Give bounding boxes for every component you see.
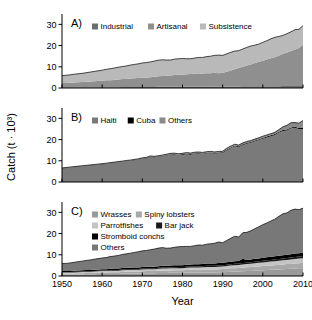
- legend-label-haiti: Haiti: [101, 116, 117, 125]
- figure-stacked-area-catch: 0102030A)IndustrialArtisanalSubsistence0…: [0, 0, 312, 320]
- y-tick-label-b-10: 10: [46, 156, 56, 166]
- legend-b: HaitiCubaOthers: [92, 116, 192, 125]
- x-tick-label-2000: 2000: [253, 279, 273, 289]
- x-tick-label-2010: 2010: [293, 279, 312, 289]
- legend-label-wrasses: Wrasses: [101, 210, 132, 219]
- legend-swatch-wrasses: [92, 212, 98, 218]
- legend-a: IndustrialArtisanalSubsistence: [92, 22, 253, 31]
- legend-label-spiny-lobsters: Spiny lobsters: [144, 210, 194, 219]
- y-tick-label-b-0: 0: [51, 177, 56, 187]
- panel-label-b: B): [71, 111, 82, 123]
- y-axis-title: Catch (t · 10³): [5, 113, 17, 181]
- legend-label-stromboid-conchs: Stromboid conchs: [101, 232, 165, 241]
- legend-label-artisanal: Artisanal: [157, 22, 188, 31]
- legend-swatch-parrotfishes: [92, 223, 98, 229]
- legend-swatch-others: [92, 245, 98, 251]
- legend-label-cuba: Cuba: [136, 116, 156, 125]
- legend-swatch-subsistence: [200, 24, 206, 30]
- x-tick-label-1960: 1960: [92, 279, 112, 289]
- legend-label-parrotfishes: Parrotfishes: [101, 221, 144, 230]
- y-tick-label-b-20: 20: [46, 135, 56, 145]
- legend-swatch-industrial: [92, 24, 98, 30]
- legend-swatch-haiti: [92, 118, 98, 124]
- legend-swatch-stromboid-conchs: [92, 234, 98, 240]
- panel-B: 0102030B)HaitiCubaOthers: [46, 108, 303, 187]
- x-tick-label-1950: 1950: [52, 279, 72, 289]
- y-tick-label-c-20: 20: [46, 229, 56, 239]
- x-axis-title: Year: [171, 295, 194, 307]
- x-tick-label-1970: 1970: [132, 279, 152, 289]
- y-tick-label-b-30: 30: [46, 114, 56, 124]
- panel-label-a: A): [71, 17, 82, 29]
- legend-label-subsistence: Subsistence: [208, 22, 252, 31]
- legend-label-others: Others: [101, 243, 125, 252]
- legend-swatch-artisanal: [148, 24, 154, 30]
- legend-c: WrassesSpiny lobstersParrotfishesBar jac…: [92, 210, 195, 252]
- y-tick-label-c-30: 30: [46, 208, 56, 218]
- legend-swatch-spiny-lobsters: [136, 212, 142, 218]
- legend-label-bar-jack: Bar jack: [165, 221, 195, 230]
- legend-label-industrial: Industrial: [101, 22, 134, 31]
- y-tick-label-a-0: 0: [51, 83, 56, 93]
- panel-A: 0102030A)IndustrialArtisanalSubsistence: [46, 14, 303, 93]
- y-tick-label-a-10: 10: [46, 62, 56, 72]
- legend-label-others: Others: [168, 116, 192, 125]
- x-tick-label-1990: 1990: [213, 279, 233, 289]
- figure-svg: 0102030A)IndustrialArtisanalSubsistence0…: [0, 0, 312, 320]
- legend-swatch-bar-jack: [156, 223, 162, 229]
- y-tick-label-c-10: 10: [46, 250, 56, 260]
- y-tick-label-a-30: 30: [46, 20, 56, 30]
- panel-label-c: C): [71, 205, 83, 217]
- x-tick-label-1980: 1980: [172, 279, 192, 289]
- y-tick-label-a-20: 20: [46, 41, 56, 51]
- legend-swatch-others: [159, 118, 165, 124]
- legend-swatch-cuba: [128, 118, 134, 124]
- panel-C: 01020301950196019701980199020002010C)Wra…: [46, 202, 312, 289]
